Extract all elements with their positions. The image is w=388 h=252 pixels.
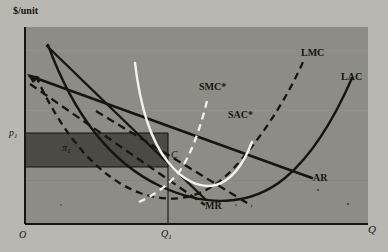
price-tick-subscript: 1 bbox=[14, 132, 18, 140]
origin-label: O bbox=[19, 230, 26, 240]
curve-label-lac: LAC bbox=[341, 72, 362, 82]
x-axis-label: Q bbox=[368, 224, 376, 235]
curve-label-ar: AR bbox=[313, 173, 327, 183]
profit-region-label: π1 bbox=[62, 143, 71, 155]
y-axis-label: $/unit bbox=[13, 6, 38, 16]
quantity-tick-subscript: 1 bbox=[168, 233, 172, 241]
curve-label-smc-star: SMC* bbox=[199, 82, 226, 92]
curve-label-mr: MR bbox=[205, 201, 222, 211]
profit-symbol-subscript: 1 bbox=[67, 147, 71, 155]
point-c-label: C bbox=[171, 150, 178, 160]
curve-label-lmc: LMC bbox=[301, 48, 324, 58]
figure-canvas: $/unit Q O p1 Q1 π1 C SMC* SAC* LMC LAC … bbox=[0, 0, 388, 252]
quantity-axis-tick: Q1 bbox=[161, 229, 172, 241]
diagram-svg bbox=[0, 0, 388, 252]
price-axis-tick: p1 bbox=[9, 128, 18, 140]
curve-label-sac-star: SAC* bbox=[228, 110, 253, 120]
profit-rectangle bbox=[25, 133, 168, 167]
